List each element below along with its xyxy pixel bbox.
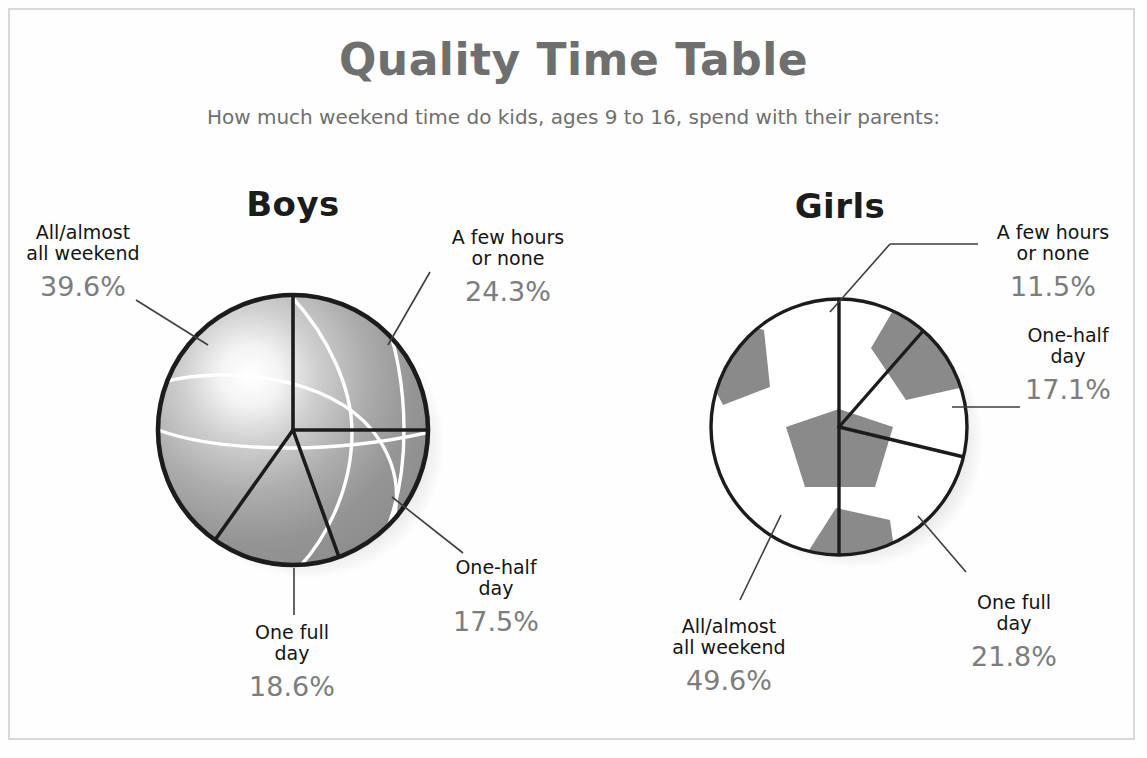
callout-boys-one-full-day: One full day 18.6% <box>222 622 362 702</box>
callout-boys-all-weekend: All/almost all weekend 39.6% <box>8 222 158 302</box>
girls-pie-divider-lines <box>839 299 964 555</box>
boys-ball-seams <box>158 296 486 578</box>
callout-label: One-half day <box>428 557 564 600</box>
callout-percent: 17.5% <box>428 606 564 637</box>
girls-divider-103deg <box>839 427 964 457</box>
boys-leader-lines <box>136 272 463 615</box>
callout-girls-one-half-day: One-half day 17.1% <box>1000 325 1136 405</box>
infographic-canvas: Quality Time Table How much weekend time… <box>0 0 1147 758</box>
callout-girls-few-hours: A few hours or none 11.5% <box>978 222 1128 302</box>
girls-leader-all-weekend <box>740 515 781 600</box>
callout-percent: 17.1% <box>1000 374 1136 405</box>
callout-girls-one-full-day: One full day 21.8% <box>944 592 1084 672</box>
callout-label: One-half day <box>1000 325 1136 368</box>
girls-ball-shadow <box>724 313 984 569</box>
boys-leader-few-hours <box>388 272 430 345</box>
girls-patch-upper-right <box>871 297 964 400</box>
chart-title-girls: Girls <box>710 186 970 226</box>
girls-patch-left <box>697 315 770 405</box>
boys-divider-160deg <box>293 430 339 557</box>
callout-label: A few hours or none <box>978 222 1128 265</box>
boys-ball-body <box>158 295 428 565</box>
callout-label: One full day <box>944 592 1084 635</box>
callout-label: A few hours or none <box>432 227 584 270</box>
girls-divider-41deg <box>839 331 923 427</box>
page-title: Quality Time Table <box>0 34 1147 85</box>
page-subtitle: How much weekend time do kids, ages 9 to… <box>0 105 1147 129</box>
callout-label: All/almost all weekend <box>640 616 818 659</box>
callout-label: All/almost all weekend <box>8 222 158 265</box>
boys-leader-one-half <box>392 497 463 553</box>
boys-pie-divider-lines <box>215 295 428 557</box>
callout-percent: 21.8% <box>944 641 1084 672</box>
girls-pie-chart <box>697 244 1020 600</box>
boys-ball-outline <box>158 295 428 565</box>
callout-girls-all-weekend: All/almost all weekend 49.6% <box>640 616 818 696</box>
girls-ball-patches <box>697 297 964 589</box>
girls-leader-one-full <box>918 516 966 572</box>
callout-percent: 39.6% <box>8 271 158 302</box>
girls-ball-outline <box>711 299 967 555</box>
girls-patch-center <box>786 409 893 487</box>
chart-title-boys: Boys <box>163 184 423 224</box>
callout-percent: 49.6% <box>640 665 818 696</box>
girls-patch-bottom <box>806 508 897 589</box>
girls-ball-body <box>711 299 967 555</box>
boys-ball-shadow <box>171 309 445 579</box>
boys-leader-all-weekend <box>136 300 208 345</box>
callout-percent: 11.5% <box>978 271 1128 302</box>
callout-label: One full day <box>222 622 362 665</box>
callout-percent: 24.3% <box>432 276 584 307</box>
callout-boys-one-half-day: One-half day 17.5% <box>428 557 564 637</box>
boys-divider-215deg <box>215 430 293 540</box>
girls-leader-few-hours-d <box>830 244 890 312</box>
callout-boys-few-hours: A few hours or none 24.3% <box>432 227 584 307</box>
callout-percent: 18.6% <box>222 671 362 702</box>
